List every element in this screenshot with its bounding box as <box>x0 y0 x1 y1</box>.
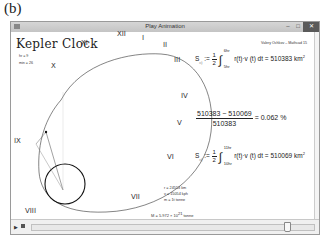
integral-icon: ∫11hr10hr <box>219 150 229 164</box>
numeral-vii: VII <box>131 193 140 201</box>
earth-mass-exponent: 21 <box>178 211 182 216</box>
slider-thumb[interactable] <box>284 222 291 232</box>
numeral-xii: XII <box>117 30 126 38</box>
eq2-assign: := <box>204 152 210 159</box>
vertical-scrollbar[interactable] <box>314 32 319 220</box>
ratio-denominator: 510383 <box>196 119 253 128</box>
eq2-frac-den: 2 <box>212 157 217 164</box>
stats-block: r = 24553 km v = 15054 kph m = 1t tonne <box>164 185 188 203</box>
area-equation-1: S◁ := 12 ∫6hr5hr r(t)·v (t) dt = 510383 … <box>195 52 305 67</box>
maximize-button[interactable]: □ <box>293 22 303 32</box>
hour-readout: hr = 9 <box>19 54 28 58</box>
eq1-frac-num: 1 <box>212 52 217 60</box>
eq1-integrand: r(t)·v (t) dt <box>234 55 263 62</box>
numeral-ix: IX <box>14 137 21 145</box>
numeral-viii: VIII <box>25 207 36 215</box>
eq1-lhs-sub: ◁ <box>199 60 202 65</box>
ratio-numerator: 510383 − 510069 <box>196 109 253 119</box>
player-controls: ▶ <box>11 219 319 234</box>
ratio-result: = 0.062 % <box>255 114 287 121</box>
eq2-lower-limit: 10hr <box>224 161 232 166</box>
minute-readout: min = 26 <box>19 61 33 65</box>
ratio-equation: 510383 − 510069510383 = 0.062 % <box>196 109 286 128</box>
figure-label: (b) <box>4 0 22 17</box>
numeral-i: I <box>142 34 144 42</box>
eq2-lhs-sub: ◁ <box>199 157 202 162</box>
eq1-upper-limit: 6hr <box>224 48 230 53</box>
eq1-unit-sup: 2 <box>303 54 305 59</box>
play-button[interactable]: ▶ <box>14 224 18 230</box>
eq2-result: = 510069 km <box>265 152 303 159</box>
window-title: Play Animation <box>11 23 319 29</box>
animation-slider[interactable] <box>31 224 315 231</box>
numeral-iii: III <box>174 56 180 64</box>
integral-icon: ∫6hr5hr <box>219 53 229 67</box>
eq1-lower-limit: 5hr <box>224 64 230 69</box>
numeral-vi: VI <box>167 153 174 161</box>
eq1-assign: := <box>204 55 210 62</box>
area-equation-2: S◁ := 12 ∫11hr10hr r(t)·v (t) dt = 51006… <box>195 149 305 164</box>
earth-mass-value: M = 5.972 × 10 <box>151 213 178 218</box>
play-animation-window: Play Animation – □ ✕ Kepler Clock hr = 9… <box>10 21 320 235</box>
numeral-xi: XI <box>81 39 88 47</box>
earth-mass-readout: M = 5.972 × 1021 tonne <box>151 211 194 218</box>
numeral-x: X <box>51 62 56 70</box>
window-controls: – □ ✕ <box>283 22 319 32</box>
minimize-button[interactable]: – <box>283 22 293 32</box>
eq2-upper-limit: 11hr <box>224 145 232 150</box>
mass-small-readout: m = 1t tonne <box>164 197 188 203</box>
numeral-iv: IV <box>181 92 188 100</box>
animation-canvas: Kepler Clock hr = 9 min = 26 Valery Ochk… <box>11 32 319 220</box>
stop-button[interactable] <box>21 224 25 228</box>
numeral-ii: II <box>163 41 167 49</box>
eq2-unit-sup: 2 <box>303 151 305 156</box>
credit-text: Valery Ochkov – Mathcad 15 <box>261 41 307 45</box>
title-bar: Play Animation – □ ✕ <box>11 22 319 32</box>
earth-mass-unit: tonne <box>184 213 194 218</box>
eq1-result: = 510383 km <box>265 55 303 62</box>
eq1-frac-den: 2 <box>212 60 217 67</box>
eq2-integrand: r(t)·v (t) dt <box>234 152 263 159</box>
numeral-v: V <box>177 119 182 127</box>
eq2-frac-num: 1 <box>212 149 217 157</box>
close-button[interactable]: ✕ <box>303 22 319 32</box>
